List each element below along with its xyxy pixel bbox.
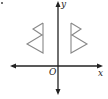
x-axis-left-arrow-icon [10,64,16,69]
y-axis [56,1,61,95]
y-axis-label: y [61,0,66,9]
y-axis-top-arrow-icon [56,1,61,7]
left-figure [27,23,43,53]
right-figure [71,23,87,53]
coordinate-diagram [0,0,108,99]
x-axis [10,64,103,69]
x-axis-label: x [98,69,103,78]
y-axis-bottom-arrow-icon [56,89,61,95]
origin-label: O [49,68,56,77]
